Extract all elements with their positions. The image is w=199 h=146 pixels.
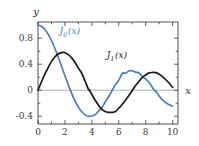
y-tick-label: -0.4 xyxy=(16,111,34,121)
x-tick-label: 10 xyxy=(167,127,179,137)
x-tick-label: 0 xyxy=(35,127,41,137)
x-tick-label: 2 xyxy=(62,127,68,137)
y-tick-label: 0 xyxy=(27,85,33,95)
x-tick-label: 4 xyxy=(89,127,95,137)
x-tick-label: 6 xyxy=(116,127,122,137)
chart-canvas: 0246810 0.80.40-0.4 y x J0(x)J1(x) xyxy=(0,0,199,146)
y-tick-label: 0.4 xyxy=(19,59,34,69)
y-axis-label: y xyxy=(32,6,39,17)
y-tick-label: 0.8 xyxy=(19,33,34,43)
x-axis-label: x xyxy=(185,85,191,96)
x-tick-label: 8 xyxy=(143,127,149,137)
bessel-function-chart: 0246810 0.80.40-0.4 y x J0(x)J1(x) xyxy=(0,0,199,146)
